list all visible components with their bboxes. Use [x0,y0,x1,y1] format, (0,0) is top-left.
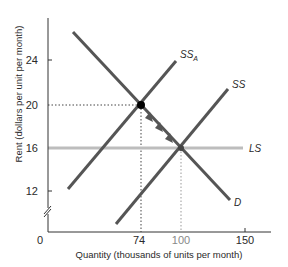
d-label: D [234,197,241,208]
x-tick-74: 74 [133,234,145,246]
x-tick-100: 100 [172,234,190,246]
adjustment-arrows [145,112,173,143]
x-tick-0: 0 [37,234,43,246]
ss-curve [116,89,228,224]
rent-market-chart: 24 20 16 12 0 74 100 150 Quantity (thous… [0,0,288,267]
ss-label: SS [232,79,246,90]
x-tick-150: 150 [236,234,254,246]
y-axis-title: Rent (dollars per unit per month) [13,26,24,163]
x-axis-title: Quantity (thousands of units per month) [76,249,243,260]
ssa-label: SSA [180,49,198,62]
new-equilibrium-dot [178,145,184,151]
y-tick-16: 16 [26,142,38,154]
ls-label: LS [249,143,262,154]
y-tick-20: 20 [26,99,38,111]
y-tick-24: 24 [26,54,38,66]
initial-equilibrium-dot [137,101,145,109]
y-tick-12: 12 [26,185,38,197]
